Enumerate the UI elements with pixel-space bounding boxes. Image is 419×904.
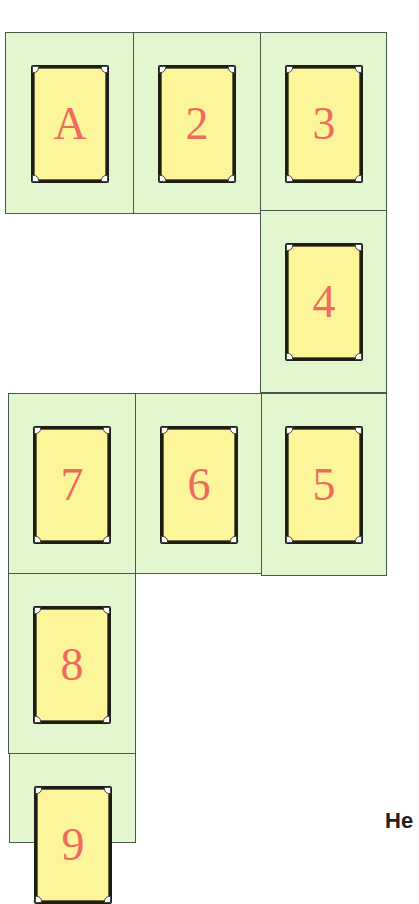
card-label: 2 — [186, 101, 209, 147]
board-tile-4[interactable]: 4 — [260, 210, 387, 393]
card-corner-icon — [104, 787, 111, 794]
card-corner-icon — [103, 607, 110, 614]
card-corner-icon — [286, 244, 293, 251]
board-tile-3[interactable]: 3 — [260, 32, 387, 212]
board-tile-a[interactable]: A — [5, 32, 134, 214]
card-label: 7 — [61, 462, 84, 508]
card[interactable]: 4 — [285, 243, 363, 361]
card[interactable]: 3 — [285, 65, 363, 183]
card-corner-icon — [34, 536, 41, 543]
card-label: 8 — [61, 642, 84, 688]
card-label: 4 — [313, 279, 336, 325]
card-corner-icon — [159, 175, 166, 182]
card-corner-icon — [103, 427, 110, 434]
card-corner-icon — [355, 244, 362, 251]
card[interactable]: 7 — [33, 426, 111, 544]
card-label: A — [53, 101, 86, 147]
card-corner-icon — [161, 536, 168, 543]
card-corner-icon — [101, 175, 108, 182]
card-corner-icon — [355, 175, 362, 182]
card-corner-icon — [228, 66, 235, 73]
board-tile-9[interactable]: 9 — [9, 753, 136, 843]
card-corner-icon — [103, 716, 110, 723]
card-corner-icon — [32, 66, 39, 73]
board-tile-6[interactable]: 6 — [135, 393, 262, 574]
card-corner-icon — [35, 787, 42, 794]
card-corner-icon — [286, 66, 293, 73]
board-tile-5[interactable]: 5 — [261, 393, 387, 576]
card-corner-icon — [355, 536, 362, 543]
card-corner-icon — [159, 66, 166, 73]
card-corner-icon — [286, 536, 293, 543]
card-corner-icon — [286, 353, 293, 360]
card-corner-icon — [230, 536, 237, 543]
board-tile-2[interactable]: 2 — [133, 32, 261, 214]
card-label: 6 — [188, 462, 211, 508]
card-corner-icon — [161, 427, 168, 434]
partial-heading: He — [385, 808, 413, 834]
card-corner-icon — [35, 896, 42, 903]
card-corner-icon — [34, 607, 41, 614]
board-tile-7[interactable]: 7 — [8, 393, 136, 574]
card-corner-icon — [104, 896, 111, 903]
card-corner-icon — [355, 353, 362, 360]
card-corner-icon — [32, 175, 39, 182]
card-corner-icon — [34, 716, 41, 723]
card-label: 9 — [62, 822, 85, 868]
card-corner-icon — [34, 427, 41, 434]
card-corner-icon — [103, 536, 110, 543]
card-label: 3 — [313, 101, 336, 147]
card-corner-icon — [228, 175, 235, 182]
card-corner-icon — [230, 427, 237, 434]
card[interactable]: 9 — [34, 786, 112, 904]
card-corner-icon — [286, 175, 293, 182]
board-tile-8[interactable]: 8 — [8, 573, 136, 754]
card-corner-icon — [101, 66, 108, 73]
card-corner-icon — [355, 427, 362, 434]
card-corner-icon — [286, 427, 293, 434]
card[interactable]: 5 — [285, 426, 363, 544]
card-corner-icon — [355, 66, 362, 73]
card[interactable]: 6 — [160, 426, 238, 544]
card[interactable]: 2 — [158, 65, 236, 183]
card[interactable]: A — [31, 65, 109, 183]
card[interactable]: 8 — [33, 606, 111, 724]
card-label: 5 — [313, 462, 336, 508]
